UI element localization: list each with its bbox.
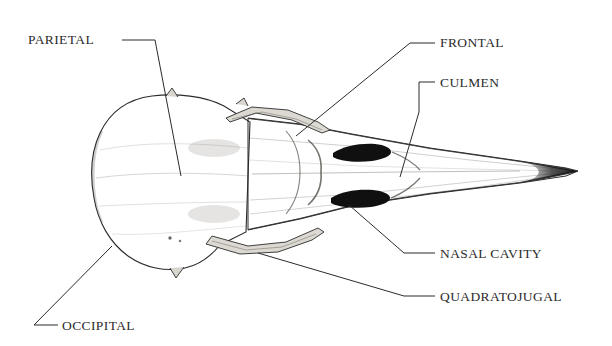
figure-canvas: PARIETAL FRONTAL CULMEN NASAL CAVITY QUA… [0, 0, 612, 346]
label-quadratojugal: QUADRATOJUGAL [440, 290, 562, 304]
label-culmen: CULMEN [440, 76, 499, 90]
leader-parietal [122, 40, 181, 176]
postorbital-spur-upper [166, 88, 178, 97]
nasal-cavity-upper [333, 144, 391, 162]
jugal-bar-lower [206, 228, 324, 254]
leader-quadratojugal [258, 253, 435, 296]
leader-occipital [34, 246, 112, 325]
jugal-bar-upper [226, 107, 330, 133]
culmen-ridge [252, 171, 520, 174]
postorbital-spur-lower [170, 267, 184, 278]
label-frontal: FRONTAL [440, 36, 504, 50]
nasal-cavity-lower [331, 190, 390, 208]
leader-culmen [400, 82, 435, 177]
label-nasal-cavity: NASAL CAVITY [440, 247, 542, 261]
nasal-cavities [331, 144, 391, 208]
label-occipital: OCCIPITAL [62, 319, 135, 333]
quadratojugal-bars [206, 107, 330, 254]
label-parietal: PARIETAL [28, 33, 94, 47]
leader-nasal-cavity [349, 205, 435, 253]
